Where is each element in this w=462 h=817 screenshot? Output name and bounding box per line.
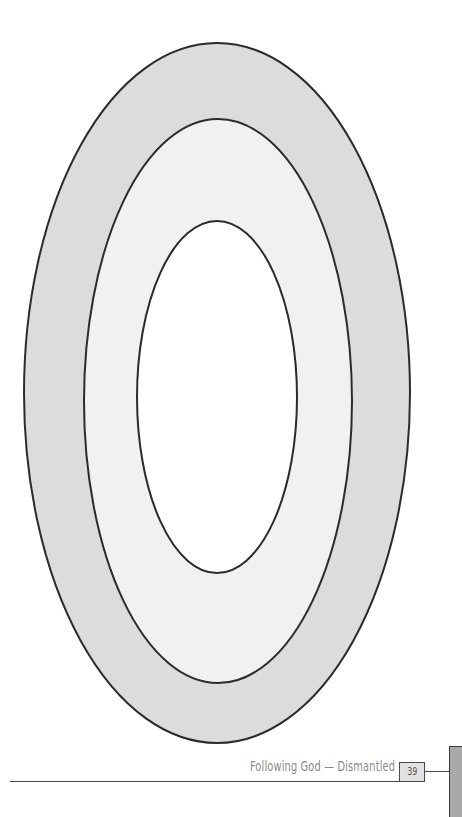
page-number: 39 [407, 763, 417, 781]
page-edge-tab [449, 746, 462, 817]
page-number-box: 39 [399, 762, 425, 782]
inner-oval [137, 221, 297, 573]
footer-book-title: Following God — Dismantled [250, 758, 395, 774]
page-tab-connector [425, 771, 450, 772]
footer-rule [10, 781, 400, 782]
